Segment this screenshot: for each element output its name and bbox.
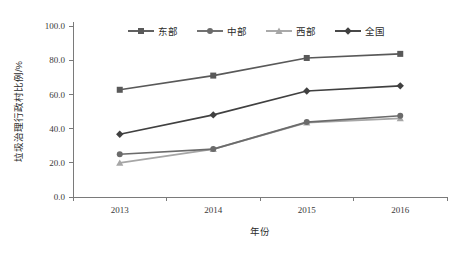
data-point-东部-2014 <box>210 73 216 79</box>
data-point-中部-2016 <box>397 113 403 119</box>
data-point-东部-2013 <box>117 87 123 93</box>
y-axis-tick-label: 20.0 <box>49 158 65 168</box>
y-axis-tick-label: 80.0 <box>49 55 65 65</box>
legend-label-中部: 中部 <box>227 26 247 37</box>
x-axis-tick-label: 2016 <box>391 205 410 215</box>
series-line-东部 <box>120 54 401 90</box>
data-point-中部-2015 <box>304 119 310 125</box>
series-东部 <box>117 51 404 93</box>
x-axis-tick-label: 2013 <box>111 205 130 215</box>
legend-item-全国[interactable]: 全国 <box>335 26 385 37</box>
data-point-中部-2013 <box>117 151 123 157</box>
legend-item-东部[interactable]: 东部 <box>128 26 178 37</box>
data-point-全国-2016 <box>397 82 404 89</box>
data-point-中部-2014 <box>210 146 216 152</box>
data-point-全国-2014 <box>210 111 217 118</box>
series-西部 <box>116 115 404 166</box>
legend-label-西部: 西部 <box>296 26 316 37</box>
series-line-中部 <box>120 116 401 154</box>
x-axis-tick-label: 2015 <box>298 205 317 215</box>
x-axis-title: 年份 <box>250 226 270 237</box>
data-point-东部-2016 <box>397 51 403 57</box>
series-line-全国 <box>120 86 401 134</box>
legend-label-全国: 全国 <box>365 26 385 37</box>
data-point-全国-2015 <box>303 87 310 94</box>
data-point-东部-2015 <box>304 55 310 61</box>
legend-item-西部[interactable]: 西部 <box>266 26 316 37</box>
legend-item-中部[interactable]: 中部 <box>197 26 247 37</box>
y-axis-tick-label: 0.0 <box>54 192 66 202</box>
line-chart: 0.020.040.060.080.0100.02013201420152016… <box>0 0 463 257</box>
y-axis-tick-label: 40.0 <box>49 124 65 134</box>
y-axis-tick-label: 100.0 <box>45 21 66 31</box>
data-point-legend-中部 <box>207 28 213 34</box>
y-axis-title: 垃圾治理行政村比例/% <box>13 60 24 162</box>
data-point-legend-东部 <box>138 28 144 34</box>
data-point-全国-2013 <box>116 131 123 138</box>
legend-label-东部: 东部 <box>158 26 178 37</box>
series-全国 <box>116 82 404 138</box>
chart-canvas: 0.020.040.060.080.0100.02013201420152016… <box>0 0 463 257</box>
data-point-legend-全国 <box>344 27 351 34</box>
x-axis-tick-label: 2014 <box>204 205 223 215</box>
y-axis-tick-label: 60.0 <box>49 90 65 100</box>
